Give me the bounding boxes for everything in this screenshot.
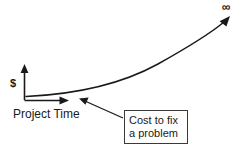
callout-line-1: Cost to fix [129, 114, 178, 127]
y-axis-arrowhead [21, 64, 29, 73]
diagram-canvas: $ Project Time ∞ Cost to fix a problem [0, 0, 247, 149]
callout-box: Cost to fix a problem [124, 110, 188, 144]
callout-leader-arrowhead [79, 98, 89, 105]
callout-leader-line [86, 102, 123, 119]
y-axis-label: $ [10, 78, 16, 89]
infinity-symbol-label: ∞ [222, 1, 231, 13]
x-axis-label: Project Time [13, 108, 80, 120]
callout-line-2: a problem [129, 127, 178, 140]
x-axis-arrowhead [60, 97, 70, 105]
cost-curve [26, 22, 224, 97]
